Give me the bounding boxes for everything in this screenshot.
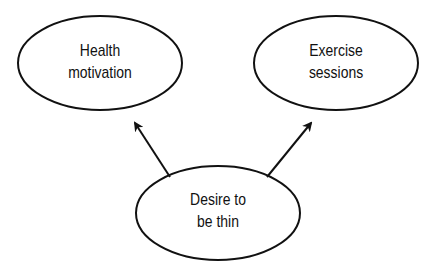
node-desire-line2: be thin (161, 211, 276, 233)
node-health-line1: Health (43, 40, 158, 62)
arrow-desire-to-health (135, 123, 170, 177)
node-exercise-line1: Exercise (279, 40, 394, 62)
node-health-label: Health motivation (43, 40, 158, 84)
node-desire-label: Desire to be thin (161, 189, 276, 233)
node-exercise-label: Exercise sessions (279, 40, 394, 84)
node-exercise-line2: sessions (279, 62, 394, 84)
node-health-line2: motivation (43, 62, 158, 84)
arrow-desire-to-exercise (267, 123, 311, 177)
node-desire-line1: Desire to (161, 189, 276, 211)
